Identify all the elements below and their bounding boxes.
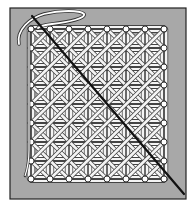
caning-weave-drawing: [0, 0, 193, 203]
caning-illustration: [0, 0, 193, 203]
